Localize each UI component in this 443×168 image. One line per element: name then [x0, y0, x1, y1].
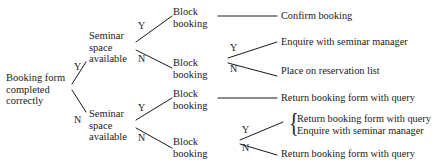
outcome-return-booking-form-with-query-2: Return booking form with query [297, 113, 431, 125]
decision-tree-diagram: Booking form completed correctly Seminar… [0, 0, 443, 168]
node-block-booking-4: Block booking [173, 136, 207, 159]
outcome-confirm-booking: Confirm booking [281, 10, 352, 22]
outcome-enquire-with-seminar-manager-bottom: Enquire with seminar manager [297, 125, 424, 137]
edge-label-block2-yes: Y [230, 43, 237, 53]
edge-label-seminar-bottom-yes: Y [138, 103, 145, 113]
outcome-place-on-reservation-list: Place on reservation list [281, 65, 380, 77]
node-block-booking-2: Block booking [173, 57, 207, 80]
edge-label-seminar-bottom-no: N [138, 133, 145, 143]
edge-root-no [72, 90, 86, 112]
node-root: Booking form completed correctly [6, 72, 65, 107]
node-block-booking-1: Block booking [173, 6, 207, 29]
outcome-return-booking-form-with-query-3: Return booking form with query [281, 148, 415, 160]
edge-label-seminar-top-no: N [138, 54, 145, 64]
edge-label-root-no: N [74, 115, 81, 125]
edge-label-seminar-top-yes: Y [138, 21, 145, 31]
node-block-booking-3: Block booking [173, 88, 207, 111]
edge-label-block2-no: N [230, 64, 237, 74]
outcome-return-booking-form-with-query-1: Return booking form with query [281, 92, 415, 104]
outcome-enquire-with-seminar-manager-top: Enquire with seminar manager [281, 36, 408, 48]
node-seminar-space-available-top: Seminar space available [89, 30, 127, 65]
edge-label-block4-yes: Y [242, 125, 249, 135]
connector-lines [0, 0, 443, 168]
node-seminar-space-available-bottom: Seminar space available [89, 108, 127, 143]
edge-label-block4-no: N [242, 143, 249, 153]
edge-label-root-yes: Y [74, 62, 81, 72]
